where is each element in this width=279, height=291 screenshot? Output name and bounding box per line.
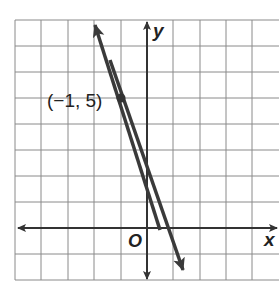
y-axis-label: y <box>152 20 165 41</box>
point-marker <box>117 94 126 103</box>
coordinate-plane: (−1, 5) y x O <box>0 0 279 291</box>
x-axis-label: x <box>263 229 276 250</box>
origin-label: O <box>128 231 142 251</box>
plotted-line <box>95 25 160 230</box>
point-label: (−1, 5) <box>47 90 102 111</box>
